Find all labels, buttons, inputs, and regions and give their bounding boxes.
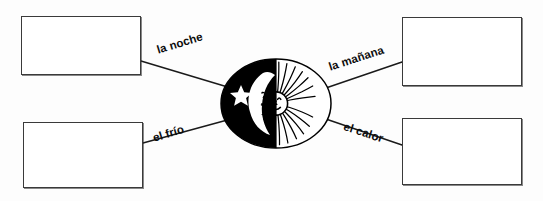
night-half-background <box>220 58 276 149</box>
worksheet-canvas: la noche la mañana el frío el calor <box>0 0 543 201</box>
answer-box-top-right[interactable] <box>402 17 522 86</box>
sun-moon-oval <box>220 58 332 149</box>
answer-box-bottom-right[interactable] <box>402 118 522 185</box>
answer-box-bottom-left[interactable] <box>23 122 143 188</box>
answer-box-top-left[interactable] <box>21 16 141 75</box>
connector-line-la-noche <box>141 61 231 88</box>
